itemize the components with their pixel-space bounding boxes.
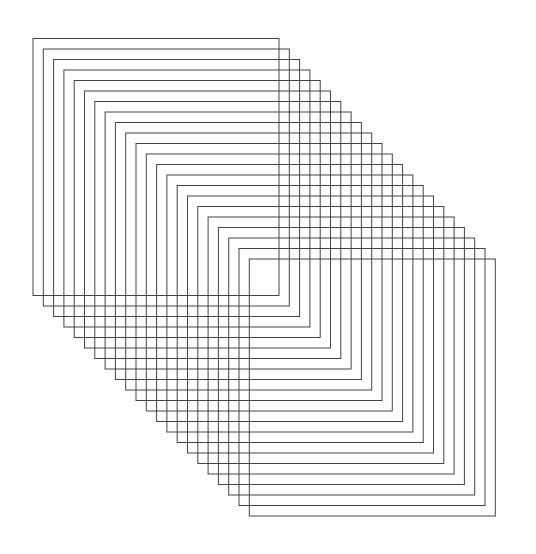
square-outline xyxy=(188,196,434,453)
square-outline xyxy=(229,238,475,495)
square-outline xyxy=(85,91,331,348)
square-outline xyxy=(43,49,289,306)
square-outline xyxy=(95,102,341,359)
square-outline xyxy=(136,144,382,401)
square-outline xyxy=(115,123,361,380)
squares-group xyxy=(33,39,495,517)
square-outline xyxy=(198,207,444,464)
square-outline xyxy=(33,39,279,296)
square-outline xyxy=(157,165,403,422)
overlapping-squares-drawing xyxy=(0,0,536,554)
square-outline xyxy=(239,249,485,506)
square-outline xyxy=(208,217,454,474)
square-outline xyxy=(167,175,413,432)
square-outline xyxy=(218,228,464,485)
square-outline xyxy=(54,60,300,317)
square-outline xyxy=(126,133,372,390)
square-outline xyxy=(177,186,423,443)
square-outline xyxy=(105,112,351,369)
square-outline xyxy=(64,70,310,327)
square-outline xyxy=(74,81,320,338)
square-outline xyxy=(249,259,495,516)
square-outline xyxy=(146,154,392,411)
